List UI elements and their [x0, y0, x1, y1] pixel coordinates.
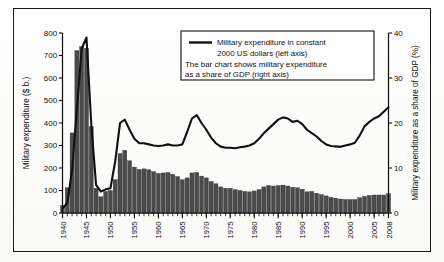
x-tick-label: 1985: [274, 222, 283, 239]
bar: [353, 200, 357, 214]
legend-line: as a share of GDP (right axis): [185, 70, 289, 79]
bar: [233, 190, 237, 213]
bar: [329, 197, 333, 213]
x-tick-label: 1980: [250, 222, 259, 239]
bar: [319, 195, 323, 213]
bar: [118, 154, 122, 213]
bar: [305, 192, 309, 213]
left-tick-label: 700: [44, 51, 58, 60]
bar: [219, 187, 223, 213]
bar: [377, 195, 381, 213]
bar: [382, 195, 386, 213]
bar: [286, 186, 290, 213]
bar: [300, 189, 304, 213]
bar: [339, 199, 343, 213]
bar: [190, 173, 194, 213]
bar: [180, 180, 184, 213]
bar: [271, 186, 275, 213]
bar: [142, 169, 146, 213]
bar: [104, 191, 108, 213]
x-tick-label: 1995: [322, 222, 331, 239]
bar: [343, 200, 347, 214]
bar: [295, 188, 299, 213]
x-tick-label: 1960: [154, 222, 163, 239]
figure-root: 0100200300400500600700800010203040194019…: [0, 0, 444, 262]
x-tick-label: 2000: [346, 222, 355, 239]
bar: [123, 150, 127, 213]
bar: [137, 169, 141, 213]
x-tick-label: 1940: [59, 222, 68, 239]
bar: [291, 187, 295, 213]
bar: [99, 197, 103, 213]
bar: [363, 196, 367, 213]
dual-axis-chart: 0100200300400500600700800010203040194019…: [0, 0, 444, 262]
bar: [267, 186, 271, 213]
legend-line: 2000 US dollars (left axis): [217, 49, 308, 58]
chart-figure: 0100200300400500600700800010203040194019…: [0, 0, 444, 262]
bar: [128, 161, 132, 213]
bar: [262, 187, 266, 213]
bar: [171, 174, 175, 213]
x-tick-label: 2005: [370, 222, 379, 239]
bar: [252, 191, 256, 213]
bar: [176, 177, 180, 213]
left-tick-label: 300: [44, 141, 58, 150]
right-tick-label: 20: [394, 119, 403, 128]
bar: [367, 195, 371, 213]
bar: [113, 180, 117, 213]
right-tick-label: 30: [394, 74, 403, 83]
x-tick-label: 1990: [298, 222, 307, 239]
bar: [334, 198, 338, 213]
left-tick-label: 800: [44, 29, 58, 38]
bar: [228, 188, 232, 213]
legend-line: The bar chart shows military expenditure: [185, 60, 328, 69]
x-tick-label: 1955: [130, 222, 139, 239]
bar: [223, 188, 227, 213]
bar: [152, 172, 156, 213]
left-tick-label: 100: [44, 186, 58, 195]
bar: [200, 176, 204, 213]
left-tick-label: 0: [53, 209, 58, 218]
x-tick-label: 1965: [178, 222, 187, 239]
bar: [247, 192, 251, 213]
chart-legend: Military expenditure in constant2000 US …: [181, 31, 374, 80]
left-tick-label: 200: [44, 164, 58, 173]
legend-line: Military expenditure in constant: [217, 38, 327, 47]
bar: [156, 173, 160, 213]
bar: [185, 178, 189, 213]
bar: [315, 193, 319, 213]
right-tick-label: 10: [394, 164, 403, 173]
right-axis-title: Military expenditure as a share of GDP (…: [411, 45, 420, 201]
bar: [257, 190, 261, 213]
x-tick-label: 1975: [226, 222, 235, 239]
right-tick-label: 40: [394, 29, 403, 38]
bar: [276, 186, 280, 213]
bar: [195, 173, 199, 214]
bar: [238, 191, 242, 214]
left-tick-label: 500: [44, 96, 58, 105]
bar: [281, 185, 285, 213]
bar: [132, 167, 136, 213]
bar: [243, 191, 247, 213]
bar: [94, 188, 98, 213]
left-tick-label: 400: [44, 119, 58, 128]
bar: [161, 173, 165, 213]
left-tick-label: 600: [44, 74, 58, 83]
bar: [214, 184, 218, 213]
bar: [372, 195, 376, 213]
bar: [108, 191, 112, 214]
bar: [358, 198, 362, 213]
x-tick-label: 1945: [82, 222, 91, 239]
bar: [204, 178, 208, 213]
bar: [324, 196, 328, 213]
right-tick-label: 0: [394, 209, 399, 218]
bar: [310, 191, 314, 213]
bar: [166, 173, 170, 214]
x-tick-label: 1950: [106, 222, 115, 239]
bar: [209, 182, 213, 214]
x-tick-label: 1970: [202, 222, 211, 239]
left-axis-title: Military expenditure ($ b.): [22, 77, 31, 170]
bar: [348, 200, 352, 214]
bar: [147, 170, 151, 213]
x-tick-label: 2008: [385, 222, 394, 239]
